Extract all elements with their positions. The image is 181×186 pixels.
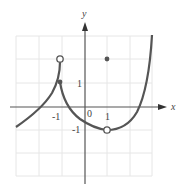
x-axis-arrow-icon xyxy=(158,104,167,110)
axes xyxy=(10,30,160,184)
graph: x y 0 -1 1 1 -1 xyxy=(0,0,181,186)
y-tick-1: 1 xyxy=(77,78,82,89)
open-point-neg1-2 xyxy=(57,56,63,62)
x-tick-1: 1 xyxy=(105,111,110,122)
x-axis-label: x xyxy=(170,101,176,112)
open-point-1-neg1 xyxy=(104,127,110,133)
grid xyxy=(16,36,152,176)
y-tick-neg1: -1 xyxy=(72,124,80,135)
origin-label: 0 xyxy=(87,108,92,119)
closed-point-1-2 xyxy=(105,57,110,62)
y-axis-arrow-icon xyxy=(82,22,88,31)
y-axis-label: y xyxy=(81,8,87,19)
x-tick-neg1: -1 xyxy=(52,111,60,122)
closed-point-neg1-1 xyxy=(58,80,63,85)
